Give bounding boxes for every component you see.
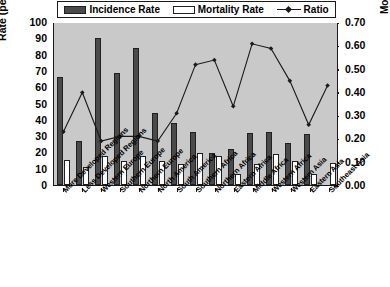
ratio-marker (99, 139, 104, 144)
chart-legend: Incidence Rate Mortality Rate Ratio (57, 1, 336, 18)
y-axis-left-label: Rate (per 100,000) (0, 0, 8, 56)
line-marker-swatch-icon (277, 6, 301, 14)
y-axis-right-tick-label: 0.60 (345, 40, 385, 50)
ratio-marker (306, 123, 311, 128)
filled-bar-swatch-icon (64, 6, 86, 14)
y-axis-left-tick-label: 20 (11, 147, 47, 157)
y-axis-right-tick-label: 0.40 (345, 87, 385, 97)
y-axis-left-tick-label: 0 (11, 180, 47, 190)
y-axis-right-tick-label: 0.00 (345, 180, 385, 190)
y-axis-left-tick-label: 60 (11, 82, 47, 92)
legend-label-incidence: Incidence Rate (89, 4, 160, 15)
ratio-marker (80, 90, 85, 95)
y-axis-right-label: Mortality-to-Incidence Ratio (379, 0, 390, 14)
ratio-marker (288, 79, 293, 84)
y-axis-left-tick-label: 100 (11, 17, 47, 27)
ratio-marker (212, 58, 217, 63)
y-axis-left-tick-label: 80 (11, 50, 47, 60)
ratio-marker (325, 83, 330, 88)
legend-label-ratio: Ratio (304, 4, 329, 15)
y-axis-left-tick-label: 90 (11, 33, 47, 43)
ratio-marker (250, 42, 255, 47)
ratio-polyline (63, 44, 327, 141)
legend-item-ratio: Ratio (277, 4, 329, 15)
y-axis-right-tick-label: 0.30 (345, 110, 385, 120)
y-axis-left-tick-label: 40 (11, 115, 47, 125)
y-axis-right-tick-label: 0.70 (345, 17, 385, 27)
ratio-marker (61, 129, 66, 134)
ratio-marker (269, 46, 274, 51)
legend-item-incidence: Incidence Rate (64, 4, 160, 15)
y-axis-left-tick-label: 10 (11, 164, 47, 174)
y-axis-left-tick-label: 30 (11, 131, 47, 141)
y-axis-right-tick-label: 0.50 (345, 64, 385, 74)
legend-label-mortality: Mortality Rate (198, 4, 264, 15)
ratio-marker (231, 104, 236, 109)
y-axis-left-tick-label: 70 (11, 66, 47, 76)
y-axis-left-tick-label: 50 (11, 99, 47, 109)
x-axis-labels: More Developed RegionsLess Developed Reg… (53, 188, 338, 286)
hollow-bar-swatch-icon (173, 6, 195, 14)
legend-item-mortality: Mortality Rate (173, 4, 264, 15)
y-axis-right-tick-label: 0.20 (345, 133, 385, 143)
ratio-marker (193, 62, 198, 67)
